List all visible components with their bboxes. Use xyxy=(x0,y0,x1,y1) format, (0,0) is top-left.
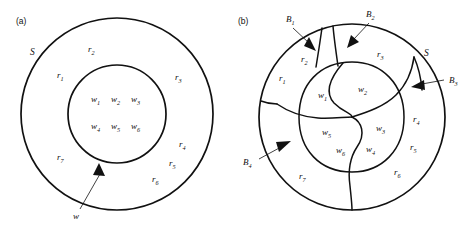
panel-a-element-w2: w2 xyxy=(111,94,120,106)
panel-a-region-r5: r5 xyxy=(169,158,176,170)
panel-a-region-r6: r6 xyxy=(152,174,160,186)
panel-b-callout-b4-label: B4 xyxy=(243,157,252,169)
panel-a-outer-circle xyxy=(21,18,213,210)
panel-b-region-r4: r4 xyxy=(413,114,420,126)
panel-b-element-w2: w2 xyxy=(358,84,367,96)
panel-a-w-callout-label: w xyxy=(73,211,79,221)
panel-b-element-w1: w1 xyxy=(318,90,327,102)
panel-a-element-w6: w6 xyxy=(131,121,141,133)
panel-b-region-r5: r5 xyxy=(410,142,417,154)
panel-a-element-w1: w1 xyxy=(91,94,100,106)
panel-b-region-r6: r6 xyxy=(394,167,402,179)
panel-b-callout-b3-label: B3 xyxy=(449,75,458,87)
panel-b-set-label: S xyxy=(424,48,429,58)
panel-b-b1-arrowhead xyxy=(304,37,316,51)
panel-b-element-w3: w3 xyxy=(376,123,385,135)
panel-b-divider-r1-r7 xyxy=(261,101,277,104)
panel-b-b2-leader-line xyxy=(354,23,369,39)
panel-b: (b) S r1 r2 r3 r4 r5 r6 r7 w1 w2 w3 w4 w… xyxy=(238,9,458,210)
panel-a-region-r1: r1 xyxy=(57,70,64,82)
panel-b-divider-r2-r3 xyxy=(333,26,338,66)
panel-a-region-r7: r7 xyxy=(57,152,65,164)
panel-a-w-leader-line xyxy=(80,174,100,209)
panel-b-element-w4: w4 xyxy=(366,144,375,156)
panel-b-caption: (b) xyxy=(238,16,249,26)
panel-a-element-w4: w4 xyxy=(91,121,100,133)
panel-b-region-r2: r2 xyxy=(301,54,308,66)
panel-a-region-r3: r3 xyxy=(175,72,182,84)
panel-a: (a) S r1 r2 r3 r4 r5 r6 r7 w1 w2 w3 w4 w… xyxy=(16,16,213,221)
figure-container: (a) S r1 r2 r3 r4 r5 r6 r7 w1 w2 w3 w4 w… xyxy=(0,0,470,227)
panel-a-element-w3: w3 xyxy=(131,94,140,106)
panel-b-region-r3: r3 xyxy=(377,49,384,61)
panel-b-b3-arrowhead xyxy=(411,80,425,90)
panel-b-callout-b1-label: B1 xyxy=(286,14,295,26)
panel-b-b4-arrowhead xyxy=(276,141,291,152)
panel-b-callout-b2-label: B2 xyxy=(366,9,375,21)
panel-b-element-w5: w5 xyxy=(322,127,331,139)
panel-b-b2-arrowhead xyxy=(347,35,359,48)
figure-svg: (a) S r1 r2 r3 r4 r5 r6 r7 w1 w2 w3 w4 w… xyxy=(0,0,470,227)
panel-a-caption: (a) xyxy=(16,16,27,26)
panel-a-element-w5: w5 xyxy=(111,121,120,133)
panel-b-b3-leader-line xyxy=(422,80,444,84)
panel-a-inner-circle xyxy=(68,65,166,163)
panel-b-divider-w1-w5 xyxy=(277,104,352,118)
panel-b-b4-leader-line xyxy=(259,147,281,159)
panel-b-element-w6: w6 xyxy=(336,145,346,157)
panel-b-divider-w1-w2 xyxy=(329,63,352,117)
panel-a-set-label: S xyxy=(30,47,35,57)
panel-a-region-r2: r2 xyxy=(88,44,95,56)
panel-b-region-r7: r7 xyxy=(299,171,307,183)
panel-a-w-arrowhead xyxy=(93,163,105,176)
panel-b-region-r1: r1 xyxy=(279,73,286,85)
panel-b-divider-r1-r2 xyxy=(316,28,322,67)
panel-b-divider-w-center-s-curve xyxy=(349,117,362,210)
panel-a-region-r4: r4 xyxy=(179,139,186,151)
